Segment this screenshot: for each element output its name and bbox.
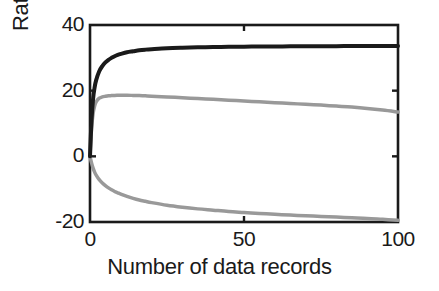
x-tick-label-0: 0 <box>50 227 130 251</box>
plot-box <box>90 25 398 222</box>
x-tick-label-100: 100 <box>358 227 438 251</box>
plot-border <box>90 25 398 222</box>
x-axis-label: Number of data records <box>0 254 439 280</box>
x-tick-label-50: 50 <box>204 227 284 251</box>
y-tick-label-40: 40 <box>62 12 84 36</box>
y-tick-label-0: 0 <box>73 143 84 167</box>
y-axis-label: Ratio (dB) <box>8 0 36 68</box>
y-tick-label-20: 20 <box>62 78 84 102</box>
chart-figure: Ratio (dB) Number of data records 40 20 … <box>0 0 439 291</box>
